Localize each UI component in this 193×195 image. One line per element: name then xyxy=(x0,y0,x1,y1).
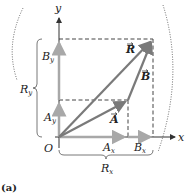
svg-text:R: R xyxy=(125,43,135,56)
vector-r xyxy=(59,42,150,137)
ry-dotted-arc xyxy=(12,8,23,80)
svg-text:B: B xyxy=(140,70,150,83)
ay-label: Ay xyxy=(43,111,57,125)
ry-brace xyxy=(33,39,42,137)
y-axis-label: y xyxy=(54,2,62,15)
vector-b-label: B xyxy=(140,70,150,84)
by-label: By xyxy=(41,50,55,64)
ax-label: Ax xyxy=(102,141,115,155)
ry-label: Ry xyxy=(19,83,33,97)
rx-dotted-arc xyxy=(158,5,173,152)
x-axis-label: x xyxy=(178,131,185,144)
bx-label: Bx xyxy=(133,141,146,155)
origin-label: O xyxy=(44,142,53,155)
figure-caption: (a) xyxy=(1,182,17,193)
vector-addition-diagram: y x O R B A By Ay Ax Bx Rx Ry (a) xyxy=(0,0,193,195)
svg-text:A: A xyxy=(109,113,119,126)
vector-a-label: A xyxy=(109,113,119,127)
rx-label: Rx xyxy=(100,162,113,176)
vector-r-label: R xyxy=(125,43,135,57)
